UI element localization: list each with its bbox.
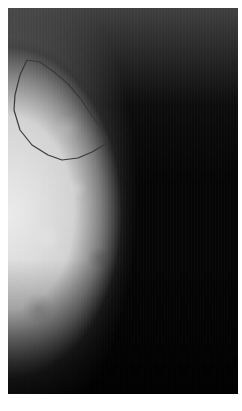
roi-contour <box>0 0 242 411</box>
roi-outline <box>14 60 108 160</box>
